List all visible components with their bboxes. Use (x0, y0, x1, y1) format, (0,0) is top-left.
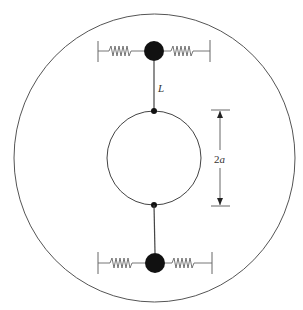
diameter-label: 2a (214, 153, 226, 165)
diameter-dimension: 2a (211, 110, 230, 206)
bottom-mass (145, 253, 165, 273)
diagram-canvas: L 2a (0, 0, 303, 310)
top-spring-mass-assembly (98, 40, 210, 62)
top-right-spring (164, 46, 210, 56)
bottom-right-spring (165, 258, 212, 268)
arrow-up-icon (217, 111, 223, 118)
bottom-spring-mass-assembly (98, 252, 212, 274)
top-left-spring (98, 46, 144, 56)
arrow-down-icon (217, 198, 223, 205)
bottom-left-spring (98, 258, 145, 268)
inner-circle (107, 111, 201, 205)
rod-length-label: L (157, 82, 164, 94)
top-mass (144, 41, 164, 61)
top-attachment-point (151, 108, 157, 114)
bottom-rod (154, 205, 155, 253)
